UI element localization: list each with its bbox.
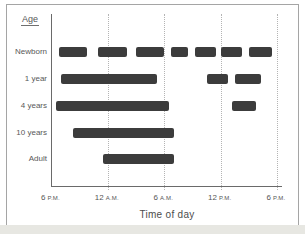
row-label-4-years: 4 years (0, 100, 47, 112)
x-tick-number: 6 (41, 193, 45, 202)
row-label-adult: Adult (0, 153, 47, 165)
y-axis-line (51, 14, 52, 186)
sleep-bar-segment (195, 47, 216, 57)
x-tick-meridiem: P.M. (219, 195, 231, 201)
sleep-bar-segment (232, 101, 255, 111)
sleep-bar-segment (56, 101, 169, 111)
sleep-bar-segment (207, 74, 228, 84)
sleep-bar-segment (221, 47, 242, 57)
x-axis-line (51, 186, 282, 187)
row-label-1-year: 1 year (0, 73, 47, 85)
x-tick-label: 6A.M. (138, 193, 188, 202)
gridline (277, 14, 278, 190)
x-tick-meridiem: A.M. (160, 195, 173, 201)
x-axis-title: Time of day (107, 209, 227, 220)
x-tick-label: 12P.M. (195, 193, 245, 202)
x-tick-meridiem: P.M. (273, 195, 285, 201)
y-axis-title: Age (21, 14, 39, 26)
sleep-bar-segment (98, 47, 126, 57)
row-label-newborn: Newborn (0, 46, 47, 58)
x-tick-number: 6 (153, 193, 157, 202)
x-tick-label: 6P.M. (26, 193, 76, 202)
x-tick-number: 12 (95, 193, 104, 202)
row-label-10-years: 10 years (0, 127, 47, 139)
sleep-bar-segment (136, 47, 164, 57)
x-tick-number: 12 (208, 193, 217, 202)
page-bottom-strip (0, 225, 305, 234)
x-tick-meridiem: A.M. (106, 195, 119, 201)
x-tick-meridiem: P.M. (48, 195, 60, 201)
x-tick-label: 6P.M. (251, 193, 301, 202)
sleep-bar-segment (73, 128, 174, 138)
gridline (221, 14, 222, 190)
x-tick-number: 6 (267, 193, 271, 202)
x-tick-label: 12A.M. (82, 193, 132, 202)
sleep-bar-segment (59, 47, 87, 57)
sleep-bar-segment (235, 74, 261, 84)
sleep-by-age-chart: Age 6P.M.12A.M.6A.M.12P.M.6P.M.Newborn1 … (0, 0, 305, 234)
sleep-bar-segment (103, 154, 173, 164)
sleep-bar-segment (249, 47, 272, 57)
sleep-bar-segment (171, 47, 187, 57)
sleep-bar-segment (61, 74, 157, 84)
